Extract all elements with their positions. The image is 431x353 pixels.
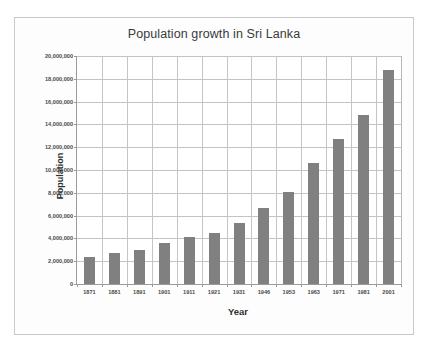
y-tick-label: 8,000,000 <box>48 190 73 196</box>
chart-title: Population growth in Sri Lanka <box>15 27 413 41</box>
y-tick-label: 6,000,000 <box>48 213 73 219</box>
y-tick-label: 16,000,000 <box>45 99 73 105</box>
gridline-vertical <box>301 56 302 284</box>
gridline-vertical <box>401 56 402 284</box>
y-tick-mark <box>74 79 77 80</box>
x-tick-label: 1931 <box>233 289 245 295</box>
x-tick-mark <box>177 284 178 287</box>
bar-1911 <box>184 237 195 284</box>
bar-1981 <box>358 115 369 284</box>
y-tick-mark <box>74 193 77 194</box>
y-tick-mark <box>74 56 77 57</box>
x-tick-label: 1971 <box>332 289 344 295</box>
gridline-horizontal <box>77 124 401 125</box>
bar-1891 <box>134 250 145 284</box>
gridline-horizontal <box>77 56 401 57</box>
gridline-horizontal <box>77 79 401 80</box>
gridline-vertical <box>376 56 377 284</box>
x-tick-mark <box>251 284 252 287</box>
x-axis-title: Year <box>76 306 400 317</box>
bar-1946 <box>258 208 269 284</box>
x-tick-label: 1881 <box>108 289 120 295</box>
x-tick-mark <box>152 284 153 287</box>
y-tick-label: 2,000,000 <box>48 258 73 264</box>
gridline-horizontal <box>77 147 401 148</box>
bar-1881 <box>109 253 120 284</box>
gridline-vertical <box>351 56 352 284</box>
y-tick-label: 12,000,000 <box>45 144 73 150</box>
gridline-vertical <box>127 56 128 284</box>
y-tick-mark <box>74 261 77 262</box>
y-tick-label: 10,000,000 <box>45 167 73 173</box>
x-tick-mark <box>202 284 203 287</box>
x-tick-mark <box>77 284 78 287</box>
gridline-horizontal <box>77 193 401 194</box>
gridline-horizontal <box>77 170 401 171</box>
bar-1953 <box>283 192 294 284</box>
gridline-vertical <box>202 56 203 284</box>
gridline-vertical <box>251 56 252 284</box>
gridline-vertical <box>276 56 277 284</box>
y-tick-mark <box>74 216 77 217</box>
x-tick-label: 1981 <box>357 289 369 295</box>
x-tick-mark <box>227 284 228 287</box>
gridline-vertical <box>152 56 153 284</box>
y-tick-mark <box>74 124 77 125</box>
gridline-vertical <box>326 56 327 284</box>
x-tick-label: 1911 <box>183 289 195 295</box>
x-tick-mark <box>301 284 302 287</box>
y-tick-mark <box>74 170 77 171</box>
x-tick-label: 1921 <box>208 289 220 295</box>
y-tick-mark <box>74 238 77 239</box>
gridline-horizontal <box>77 216 401 217</box>
y-tick-label: 20,000,000 <box>45 53 73 59</box>
y-tick-label: 18,000,000 <box>45 76 73 82</box>
gridline-vertical <box>227 56 228 284</box>
x-tick-label: 1871 <box>83 289 95 295</box>
x-tick-mark <box>351 284 352 287</box>
y-tick-mark <box>74 147 77 148</box>
bar-1921 <box>209 233 220 284</box>
plot-area: 02,000,0004,000,0006,000,0008,000,00010,… <box>76 56 401 285</box>
x-tick-mark <box>127 284 128 287</box>
x-tick-label: 1953 <box>283 289 295 295</box>
x-tick-label: 1946 <box>258 289 270 295</box>
chart-frame: Population growth in Sri Lanka Populatio… <box>14 17 414 335</box>
x-tick-label: 1891 <box>133 289 145 295</box>
gridline-horizontal <box>77 102 401 103</box>
x-tick-label: 1963 <box>308 289 320 295</box>
x-tick-mark <box>276 284 277 287</box>
bar-1931 <box>234 223 245 284</box>
y-tick-label: 0 <box>70 281 73 287</box>
x-tick-mark <box>102 284 103 287</box>
bar-1963 <box>308 163 319 284</box>
y-tick-label: 14,000,000 <box>45 121 73 127</box>
bar-1971 <box>333 139 344 284</box>
gridline-vertical <box>102 56 103 284</box>
gridline-vertical <box>177 56 178 284</box>
bar-1871 <box>84 257 95 284</box>
y-tick-mark <box>74 102 77 103</box>
y-tick-label: 4,000,000 <box>48 235 73 241</box>
x-tick-label: 1901 <box>158 289 170 295</box>
bar-1901 <box>159 243 170 284</box>
x-tick-mark <box>401 284 402 287</box>
x-tick-mark <box>326 284 327 287</box>
bar-2001 <box>383 70 394 284</box>
x-tick-label: 2001 <box>382 289 394 295</box>
x-tick-mark <box>376 284 377 287</box>
